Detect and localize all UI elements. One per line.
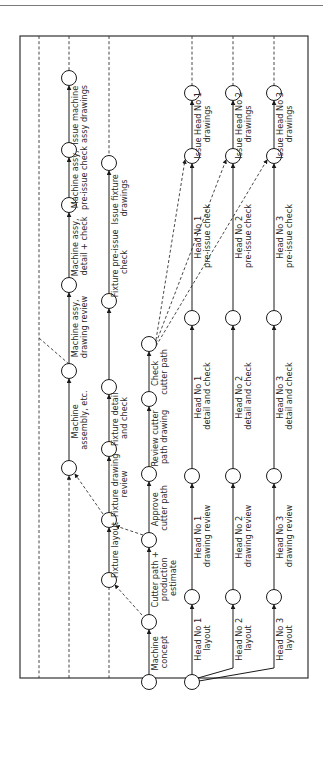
label-head2-issue: Issue Head No 2 drawings xyxy=(234,89,253,158)
node-head2-review[interactable] xyxy=(226,469,241,484)
label-head3-review: Head No 3 drawing review xyxy=(275,504,294,567)
node-machine-drawing-review[interactable] xyxy=(62,364,77,379)
node-machine-detail[interactable] xyxy=(62,278,77,293)
activity-network-diagram: Machine concept Cutter path + production… xyxy=(0,0,323,758)
label-head2-detail: Head No 2 detail and check xyxy=(234,362,253,430)
label-head3-layout: Head No 3 layout xyxy=(275,615,294,661)
label-review-cutter: Review cutter path drawing xyxy=(150,408,169,467)
node-head2-layout[interactable] xyxy=(226,590,241,605)
label-head1-issue: Issue Head No 1 drawings xyxy=(193,89,212,158)
label-fixture-detail: Fixture detail and check xyxy=(110,390,129,446)
node-check-cutter[interactable] xyxy=(142,337,157,352)
label-machine-preissue: Machine assy, pre-issue check xyxy=(70,146,89,210)
label-head2-layout: Head No 2 layout xyxy=(234,615,253,661)
label-head2-preissue: Head No 2 pre-issue check xyxy=(234,204,253,268)
node-machine-assembly[interactable] xyxy=(62,461,77,476)
label-fixture-issue: Issue fixture drawings xyxy=(110,171,129,224)
node-head3-review[interactable] xyxy=(267,469,282,484)
node-head2-detail[interactable] xyxy=(226,311,241,326)
label-machine-detail: Machine assy, detail + check xyxy=(70,216,89,276)
label-head1-layout: Head No 1 layout xyxy=(193,615,212,661)
label-fixture-preissue: Fixture pre-issue check xyxy=(110,227,129,297)
node-head1-detail[interactable] xyxy=(185,311,200,326)
label-fixture-layout: Fixture layout xyxy=(110,521,120,578)
node-head3-detail[interactable] xyxy=(267,311,282,326)
label-head3-preissue: Head No 3 pre-issue check xyxy=(275,204,294,268)
label-machine-issue: Issue machine assy drawings xyxy=(70,83,89,145)
label-head1-detail: Head No 1 detail and check xyxy=(193,362,212,430)
node-head1-layout[interactable] xyxy=(185,590,200,605)
label-machine-assembly: Machine assembly, etc. xyxy=(70,390,89,449)
label-machine-review: Machine assy, drawing review xyxy=(70,295,89,358)
node-review-cutter[interactable] xyxy=(142,392,157,407)
label-head1-preissue: Head No 1 pre-issue check xyxy=(193,204,212,268)
label-machine-concept: Machine concept xyxy=(150,634,169,671)
label-head3-detail: Head No 3 detail and check xyxy=(275,362,294,430)
node-head-start[interactable] xyxy=(185,675,200,690)
node-start-machine[interactable] xyxy=(142,675,157,690)
node-cutter-estimate[interactable] xyxy=(142,533,157,548)
label-approve-cutter: Approve cutter path xyxy=(150,485,169,531)
label-check-cutter: Check cutter path xyxy=(150,349,169,395)
label-head1-review: Head No 1 drawing review xyxy=(193,504,212,567)
label-head2-review: Head No 2 drawing review xyxy=(234,504,253,567)
node-fixture-issue[interactable] xyxy=(102,156,117,171)
node-head1-review[interactable] xyxy=(185,469,200,484)
node-approve-cutter[interactable] xyxy=(142,467,157,482)
label-head3-issue: Issue Head No 3 drawings xyxy=(275,89,294,158)
label-cutter-estimate: Cutter path + production estimate xyxy=(150,548,178,607)
node-machine-concept[interactable] xyxy=(142,615,157,630)
label-fixture-review: Fixture drawing review xyxy=(110,451,129,517)
node-head3-layout[interactable] xyxy=(267,590,282,605)
